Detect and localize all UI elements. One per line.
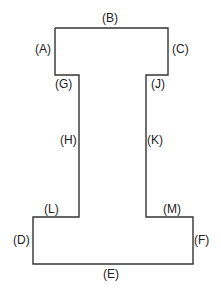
- label-k: (K): [147, 134, 163, 146]
- label-d: (D): [13, 234, 30, 246]
- label-e: (E): [103, 268, 119, 280]
- label-a: (A): [35, 43, 51, 55]
- label-l: (L): [44, 203, 59, 215]
- label-f: (F): [194, 234, 209, 246]
- label-h: (H): [60, 134, 77, 146]
- label-g: (G): [55, 78, 72, 90]
- label-b: (B): [102, 12, 118, 24]
- label-j: (J): [151, 78, 165, 90]
- label-m: (M): [163, 203, 181, 215]
- label-c: (C): [172, 43, 189, 55]
